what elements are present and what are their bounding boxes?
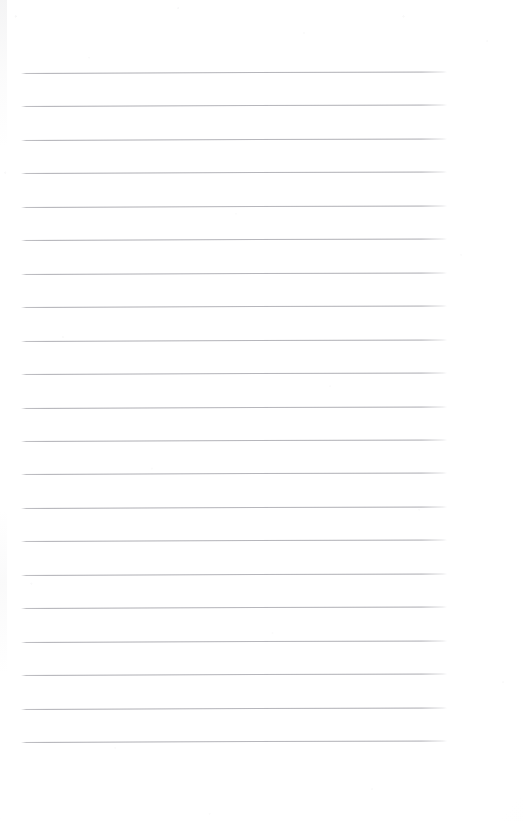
rule-line-18 <box>21 640 447 643</box>
rule-line-13 <box>21 473 447 476</box>
rule-line-9 <box>21 339 447 342</box>
rule-line-4 <box>21 172 447 175</box>
rule-line-21 <box>21 740 447 743</box>
rule-line-3 <box>21 138 447 141</box>
rule-line-14 <box>21 506 447 509</box>
rule-line-8 <box>21 305 447 308</box>
rule-line-17 <box>21 607 447 610</box>
scanned-page <box>0 0 524 822</box>
rule-line-15 <box>21 540 447 543</box>
rule-line-2 <box>21 105 447 108</box>
rule-line-11 <box>21 406 447 409</box>
rule-line-5 <box>21 205 447 208</box>
rule-line-1 <box>21 71 447 74</box>
ruled-lines-group <box>0 0 524 822</box>
rule-line-12 <box>21 439 447 442</box>
rule-line-6 <box>21 239 447 242</box>
rule-line-16 <box>21 573 447 576</box>
rule-line-20 <box>21 707 447 710</box>
rule-line-7 <box>21 272 447 275</box>
rule-line-10 <box>21 372 447 375</box>
rule-line-19 <box>21 673 447 676</box>
